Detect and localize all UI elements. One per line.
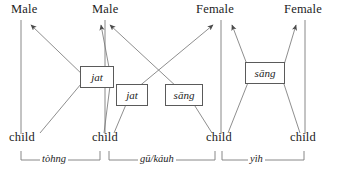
top-node-female-1: Female xyxy=(196,3,234,16)
top-node-male-2: Male xyxy=(92,3,118,16)
arrow-box2-to-top3 xyxy=(137,25,213,88)
relation-box-jat-1: jat xyxy=(80,66,114,88)
arrow-box1-to-top1 xyxy=(31,25,86,78)
bottom-node-child-3: child xyxy=(206,131,232,144)
bottom-node-child-4: child xyxy=(290,131,316,144)
relation-box-sang-1: sāng xyxy=(165,84,203,106)
top-node-female-2: Female xyxy=(284,3,322,16)
bracket-label-gu-kauh: gū/káuh xyxy=(138,153,176,164)
relation-box-jat-2: jat xyxy=(116,84,148,106)
arrow-box3-to-top2 xyxy=(110,25,178,88)
bracket-label-tohng: tòhng xyxy=(40,153,68,164)
relation-box-sang-2: sāng xyxy=(245,62,285,84)
kinship-diagram: Male Male Female Female child child chil… xyxy=(0,0,338,175)
top-node-male-1: Male xyxy=(11,3,37,16)
bracket-label-yih: yìh xyxy=(248,153,265,164)
bottom-node-child-1: child xyxy=(9,131,35,144)
bottom-node-child-2: child xyxy=(92,131,118,144)
